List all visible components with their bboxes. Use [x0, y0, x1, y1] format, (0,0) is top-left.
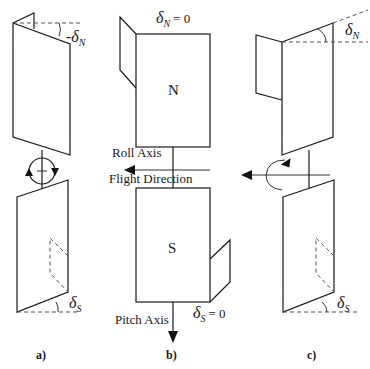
flight-direction-label: Flight Direction — [109, 171, 193, 186]
arc-arrowhead-icon — [281, 156, 293, 168]
panel-c-south-fin: δS — [283, 180, 360, 314]
pitch-axis-label: Pitch Axis — [115, 312, 169, 327]
panel-b-north: N — [120, 17, 210, 147]
north-label: N — [168, 82, 179, 98]
panel-b-south: S — [136, 188, 230, 302]
arrow-down-icon — [168, 331, 178, 343]
south-flap — [210, 240, 230, 302]
panel-b: δN= 0 N Roll Axis Flight Direction S Pit… — [109, 9, 230, 362]
panel-c-north-fin: δN — [256, 10, 368, 155]
angle-label-delta-s: δS — [337, 294, 349, 314]
angle-label-delta-s-zero: δS= 0 — [193, 304, 226, 324]
south-fin-body — [283, 180, 334, 312]
north-fin-flap — [256, 35, 282, 100]
north-fin-body — [13, 23, 70, 155]
arrow-up-icon — [25, 168, 33, 176]
angle-label-delta-s: δS — [69, 294, 81, 314]
arrow-left-icon — [241, 170, 252, 180]
panel-label-b: b) — [166, 348, 177, 362]
south-label: S — [168, 240, 176, 256]
panel-a-north-fin: -δN — [13, 13, 87, 155]
north-fin-body — [282, 23, 333, 155]
panel-a: -δN δS a) — [13, 13, 87, 362]
panel-label-c: c) — [307, 348, 316, 362]
roll-axis-label: Roll Axis — [112, 145, 162, 160]
angle-label-delta-n-zero: δN= 0 — [156, 9, 190, 29]
angle-label-delta-n: δN — [345, 21, 360, 41]
panel-c: δN δS c) — [241, 10, 368, 362]
arrow-down-icon — [51, 168, 59, 176]
diagram-svg: -δN δS a) δN= 0 N — [0, 0, 370, 369]
angle-arc — [59, 23, 61, 36]
panel-a-south-fin: δS — [17, 180, 81, 314]
panel-label-a: a) — [36, 348, 46, 362]
figure-canvas: -δN δS a) δN= 0 N — [0, 0, 370, 369]
north-flap — [120, 17, 136, 88]
angle-arc — [322, 302, 327, 312]
south-fin-body — [17, 180, 68, 312]
angle-arc — [56, 302, 58, 312]
